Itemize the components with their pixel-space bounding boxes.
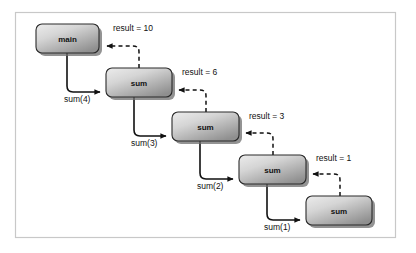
recursion-diagram-root: main sum sum sum sum sum(4) sum(3) sum(2…: [0, 0, 416, 253]
node-main-label: main: [58, 35, 77, 44]
call-label-sum3: sum(3): [131, 138, 158, 148]
node-sum3[interactable]: sum: [172, 112, 242, 144]
node-main[interactable]: main: [36, 24, 102, 56]
return-edge-sum1-to-sum2: [313, 174, 340, 196]
call-edge-sum2-to-sum1: [267, 184, 300, 220]
return-edge-sum3-to-sum4: [179, 90, 206, 112]
node-sum4-label: sum: [131, 79, 147, 88]
call-edge-sum4-to-sum3: [134, 97, 166, 136]
result-label-10: result = 10: [113, 23, 153, 33]
result-label-3: result = 3: [249, 111, 284, 121]
call-edge-main-to-sum4: [67, 53, 100, 92]
call-label-sum4: sum(4): [64, 94, 91, 104]
node-sum1[interactable]: sum: [306, 196, 375, 228]
result-label-1: result = 1: [316, 153, 351, 163]
call-label-sum2: sum(2): [197, 181, 224, 191]
node-sum1-label: sum: [331, 207, 347, 216]
node-sum3-label: sum: [197, 123, 213, 132]
return-edge-sum4-to-main: [107, 46, 139, 68]
call-edge-sum3-to-sum2: [200, 141, 233, 179]
node-sum2[interactable]: sum: [239, 155, 309, 187]
node-sum2-label: sum: [264, 166, 280, 175]
call-label-sum1: sum(1): [264, 222, 291, 232]
result-label-6: result = 6: [182, 67, 217, 77]
recursion-call-stack-diagram: main sum sum sum sum sum(4) sum(3) sum(2…: [0, 0, 416, 253]
node-sum4[interactable]: sum: [106, 68, 175, 100]
return-edge-sum2-to-sum3: [246, 133, 273, 155]
